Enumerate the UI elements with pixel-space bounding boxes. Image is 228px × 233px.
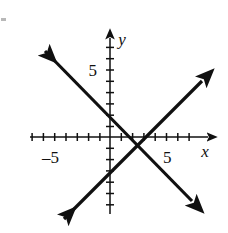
x-axis-label: x [200,142,209,161]
line-positive-slope [64,81,202,219]
x-tick-label-negative-5: –5 [41,148,59,167]
graph-screenshot: x y 5 –5 5 [0,0,228,233]
line-negative-slope [45,51,192,201]
y-tick-label-5: 5 [89,61,98,80]
y-axis-label: y [116,30,126,49]
x-tick-label-5: 5 [163,148,172,167]
coordinate-plane-figure: x y 5 –5 5 [0,0,228,233]
